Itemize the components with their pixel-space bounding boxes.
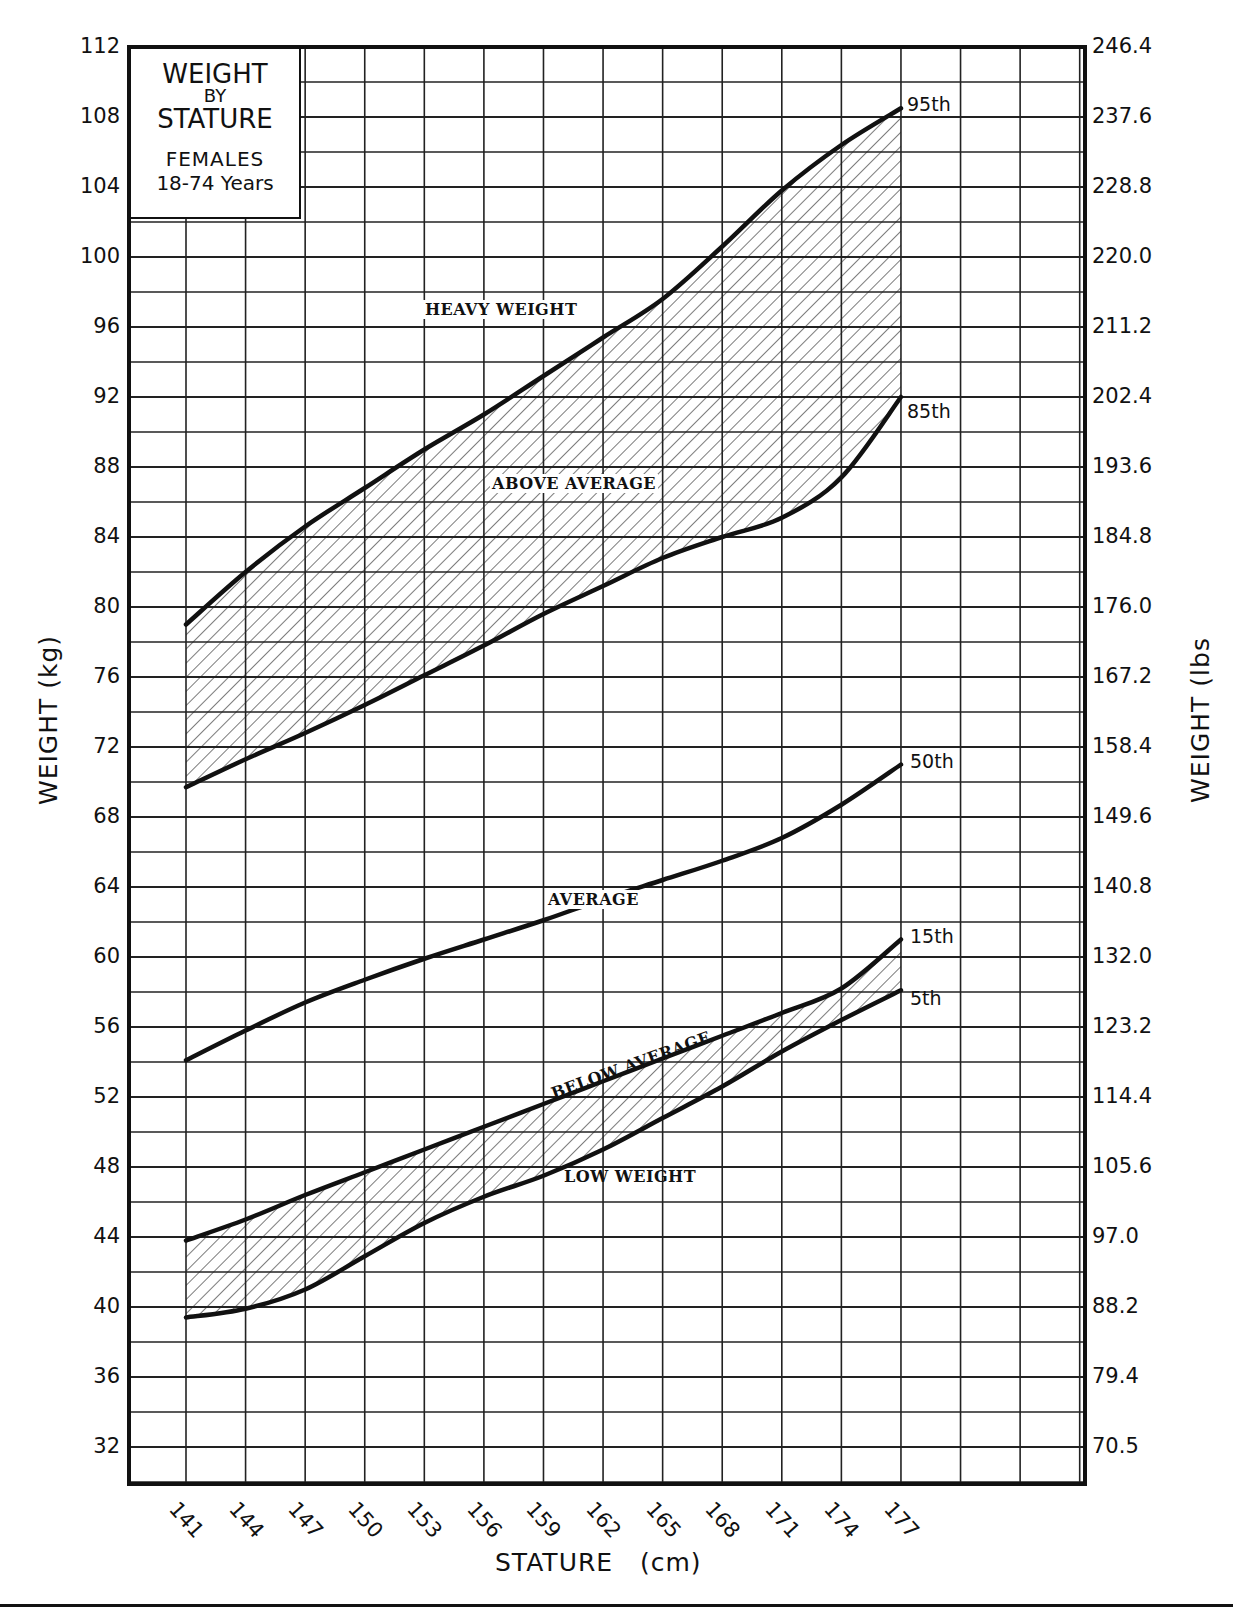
chart-title-box: WEIGHT BY STATURE FEMALES 18-74 Years (131, 49, 301, 219)
y-right-tick: 176.0 (1092, 594, 1152, 618)
subtitle-sex: FEMALES (131, 147, 299, 171)
y-right-tick: 228.8 (1092, 174, 1152, 198)
y-left-tick: 32 (25, 1434, 120, 1458)
title-line-3: STATURE (131, 105, 299, 133)
y-left-tick: 60 (25, 944, 120, 968)
y-right-tick: 70.5 (1092, 1434, 1139, 1458)
label-85th: 85th (907, 400, 951, 422)
y-left-tick: 96 (25, 314, 120, 338)
y-left-tick: 112 (25, 34, 120, 58)
y-left-tick: 56 (25, 1014, 120, 1038)
y-right-tick: 140.8 (1092, 874, 1152, 898)
y-right-tick: 237.6 (1092, 104, 1152, 128)
y-left-tick: 88 (25, 454, 120, 478)
subtitle-age: 18-74 Years (131, 171, 299, 195)
y-right-tick: 132.0 (1092, 944, 1152, 968)
label-15th: 15th (910, 925, 954, 947)
y-axis-left-title: WEIGHT (kg) (34, 635, 63, 805)
y-left-tick: 44 (25, 1224, 120, 1248)
y-right-tick: 184.8 (1092, 524, 1152, 548)
label-above-average: ABOVE AVERAGE (490, 474, 658, 493)
y-left-tick: 100 (25, 244, 120, 268)
y-right-tick: 114.4 (1092, 1084, 1152, 1108)
y-right-tick: 211.2 (1092, 314, 1152, 338)
y-left-tick: 52 (25, 1084, 120, 1108)
label-average: AVERAGE (546, 890, 641, 909)
y-left-tick: 64 (25, 874, 120, 898)
y-left-tick: 68 (25, 804, 120, 828)
y-left-tick: 36 (25, 1364, 120, 1388)
y-axis-right-title: WEIGHT (lbs (1186, 637, 1215, 803)
y-left-tick: 108 (25, 104, 120, 128)
y-right-tick: 220.0 (1092, 244, 1152, 268)
label-5th: 5th (910, 987, 942, 1009)
label-50th: 50th (910, 750, 954, 772)
y-right-tick: 123.2 (1092, 1014, 1152, 1038)
y-left-tick: 84 (25, 524, 120, 548)
bottom-rule (0, 1604, 1233, 1607)
y-right-tick: 158.4 (1092, 734, 1152, 758)
y-left-tick: 48 (25, 1154, 120, 1178)
label-heavy-weight: HEAVY WEIGHT (423, 300, 579, 319)
label-low-weight: LOW WEIGHT (562, 1167, 698, 1186)
y-left-tick: 80 (25, 594, 120, 618)
y-right-tick: 167.2 (1092, 664, 1152, 688)
chart-canvas (0, 0, 1233, 1618)
y-right-tick: 88.2 (1092, 1294, 1139, 1318)
title-line-2: BY (131, 87, 299, 105)
y-left-tick: 92 (25, 384, 120, 408)
y-right-tick: 105.6 (1092, 1154, 1152, 1178)
y-right-tick: 79.4 (1092, 1364, 1139, 1388)
y-right-tick: 246.4 (1092, 34, 1152, 58)
y-left-tick: 104 (25, 174, 120, 198)
y-right-tick: 202.4 (1092, 384, 1152, 408)
y-right-tick: 193.6 (1092, 454, 1152, 478)
x-axis-title: STATURE (cm) (495, 1548, 702, 1577)
label-95th: 95th (907, 93, 951, 115)
y-left-tick: 40 (25, 1294, 120, 1318)
title-line-1: WEIGHT (131, 61, 299, 87)
y-right-tick: 149.6 (1092, 804, 1152, 828)
y-right-tick: 97.0 (1092, 1224, 1139, 1248)
